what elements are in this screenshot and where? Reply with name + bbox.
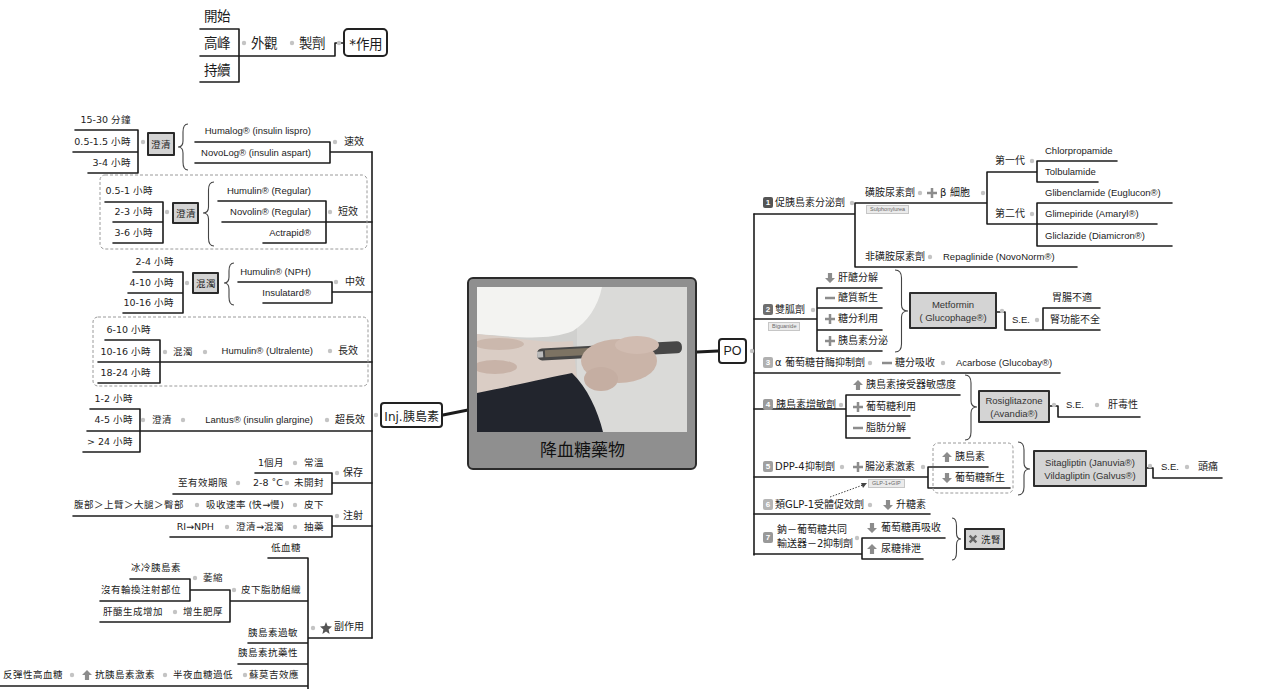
long-onset: 6-10 小時	[106, 324, 151, 336]
side-effect-allergy: 胰島素過敏	[248, 627, 298, 639]
drug-glimepiride: Glimepiride (Amaryl®)	[1045, 208, 1139, 220]
sensitizer-effect-receptor: 胰島素接受器敏感度	[866, 379, 956, 391]
long-acting-label: 長效	[338, 345, 358, 357]
storage-unopened-temperature: 2-8 ˚C	[253, 477, 283, 489]
dpp4-effect-insulin: 胰島素	[955, 451, 985, 463]
oral-po-node: PO	[718, 338, 747, 364]
ultralong-duration: > 24 小時	[87, 436, 133, 448]
legend-timing-start: 開始	[204, 8, 230, 24]
central-topic-title: 降血糖藥物	[469, 439, 695, 461]
side-effect-lipodystrophy: 皮下脂肪組織	[241, 584, 301, 596]
legend-formulation: 製劑	[299, 35, 325, 51]
class-2-badge: 2	[763, 304, 773, 315]
biguanide-tag: Biguanide	[768, 322, 800, 331]
short-appearance-label: 澄清	[176, 206, 196, 220]
short-peak: 2-3 小時	[114, 206, 153, 218]
sglt2-label-line1: 鈉－葡萄糖共同	[777, 524, 847, 536]
secretagogue-label: 促胰島素分泌劑	[775, 197, 845, 209]
legend-timing-peak: 高峰	[204, 35, 230, 51]
side-effect-somogyi: 蘇莫吉效應	[249, 669, 299, 681]
administration-connector	[73, 516, 372, 537]
biguanide-effect-insulin-secretion: 胰島素分泌	[838, 335, 888, 347]
agi-effect-absorption: 糖分吸收	[895, 357, 935, 369]
incretin-tag: GLP-1+GIP	[868, 479, 905, 488]
legend-action-label: *作用	[349, 33, 382, 53]
metformin-se-gi-upset: 胃腸不適	[1052, 292, 1092, 304]
legend-timing-duration: 持續	[204, 62, 230, 78]
rapid-appearance-node: 澄清	[147, 132, 175, 156]
drug-repaglinide: Repaglinide (NovoNorm®)	[943, 251, 1055, 263]
somogyi-cause: 半夜血糖過低	[173, 669, 233, 681]
drug-gliclazide: Gliclazide (Diamicron®)	[1045, 230, 1145, 242]
intermediate-duration: 10-16 小時	[123, 297, 174, 309]
injection-insulin-node: Inj.胰島素	[380, 402, 443, 428]
drawing-clear-to-cloudy: 澄清→混濁	[236, 521, 284, 533]
star-icon	[320, 622, 332, 634]
drug-acarbose: Acarbose (Glucobay®)	[956, 357, 1052, 369]
x-mark-icon	[968, 534, 978, 544]
administration-label: 注射	[343, 510, 363, 522]
rapid-drug-humalog: Humalog® (insulin lispro)	[205, 125, 311, 137]
class-7-badge: 7	[763, 532, 773, 543]
lipoatrophy-label: 萎縮	[203, 572, 223, 584]
minus-icon	[882, 358, 892, 368]
metformin-brand: ( Glucophage®)	[919, 311, 986, 324]
drug-glibenclamide: Glibenclamide (Euglucon®)	[1045, 187, 1161, 199]
sulfonylurea-label: 磺胺尿素劑	[865, 187, 915, 199]
first-generation-label: 第一代	[995, 155, 1025, 167]
intermediate-drug-humulin-nph: Humulin® (NPH)	[240, 266, 311, 278]
short-acting-label: 短效	[338, 206, 358, 218]
glp1-effect-glucagon: 升糖素	[896, 499, 926, 511]
plus-icon	[825, 336, 835, 346]
storage-room-temp: 常溫	[304, 457, 324, 469]
central-topic-node: 降血糖藥物	[467, 277, 697, 470]
central-to-oral-connector	[697, 351, 718, 352]
plus-icon	[853, 402, 863, 412]
gliptin-node: Sitagliptin (Januvia®) Vildagliptin (Gal…	[1033, 450, 1147, 487]
drug-chlorpropamide: Chlorpropamide	[1045, 145, 1113, 157]
class-5-badge: 5	[763, 461, 773, 472]
subcutaneous-absorption-rate: 吸收速率 (快→慢)	[206, 499, 284, 511]
up-arrow-icon	[942, 452, 952, 462]
biguanide-effect-glycogenolysis: 肝醣分解	[838, 272, 878, 284]
drawing-medication: 抽藥	[304, 521, 324, 533]
drawing-order-ri-nph: RI→NPH	[177, 521, 214, 533]
sulfonylurea-tag: Sulphonylurea	[866, 205, 909, 214]
oral-po-label: PO	[723, 344, 741, 358]
drug-vildagliptin: Vildagliptin (Galvus®)	[1044, 469, 1135, 482]
somogyi-result: 反彈性高血糖	[3, 669, 63, 681]
sensitizer-label: 胰島素增敏劑	[776, 399, 836, 411]
rapid-onset: 15-30 分鐘	[80, 114, 131, 126]
glp1-relation-arrow	[830, 483, 867, 497]
hypertrophy-cause: 肝醣生成增加	[103, 606, 163, 618]
legend-appearance: 外觀	[251, 35, 277, 51]
short-drug-novolin-regular: Novolin® (Regular)	[230, 206, 311, 218]
class-1-badge: 1	[763, 197, 773, 208]
minus-icon	[825, 293, 835, 303]
intermediate-peak: 4-10 小時	[129, 277, 174, 289]
biguanide-brace	[895, 270, 908, 352]
biguanide-effect-glucose-utilization: 糖分利用	[838, 313, 878, 325]
gliptin-se-headache: 頭痛	[1198, 461, 1218, 473]
plus-icon	[853, 462, 863, 472]
beta-cell-label: β 細胞	[940, 187, 970, 199]
biguanide-label: 雙胍劑	[775, 304, 805, 316]
somogyi-mechanism: 抗胰島素激素	[95, 669, 155, 681]
up-arrow-icon	[82, 670, 92, 680]
sensitizer-effect-glucose-use: 葡萄糖利用	[866, 401, 916, 413]
plus-icon	[825, 314, 835, 324]
rosiglitazone-brand: (Avandia®)	[990, 407, 1038, 420]
short-drug-actrapid: Actrapid®	[269, 227, 311, 239]
rapid-acting-label: 速效	[344, 136, 364, 148]
long-duration: 18-24 小時	[100, 367, 151, 379]
intermediate-acting-label: 中效	[345, 276, 365, 288]
drug-sitagliptin: Sitagliptin (Januvia®)	[1045, 456, 1135, 469]
legend-action-node: *作用	[343, 28, 388, 57]
ultralong-appearance-label: 澄清	[152, 414, 172, 426]
glp1-agonist-label: 類GLP-1受體促效劑	[775, 499, 864, 511]
rosiglitazone-node: Rosiglitazone (Avandia®)	[978, 390, 1050, 423]
rapid-drug-novolog: NovoLog® (insulin aspart)	[201, 147, 311, 159]
class-6-badge: 6	[763, 499, 773, 510]
down-arrow-icon	[825, 273, 835, 283]
intermediate-onset: 2-4 小時	[135, 256, 174, 268]
